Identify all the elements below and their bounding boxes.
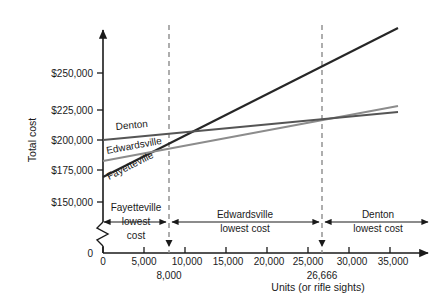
indifference-lines: 8,000 26,666 — [156, 25, 337, 281]
y-tick-label-200000: $200,000 — [51, 135, 93, 146]
y-axis: $250,000 $225,000 $200,000 $175,000 $150… — [26, 30, 108, 259]
x-tick-label-15000: 15,000 — [213, 256, 244, 267]
chart-canvas: $250,000 $225,000 $200,000 $175,000 $150… — [0, 0, 439, 302]
region-label-edwardsville-2: lowest cost — [220, 223, 270, 234]
x-tick-label-20000: 20,000 — [254, 256, 285, 267]
series-label-denton: Denton — [115, 118, 148, 132]
x-axis: 0 5,000 10,000 15,000 20,000 25,000 30,0… — [100, 247, 428, 293]
y-origin-label: 0 — [87, 248, 93, 259]
region-label-fayetteville-2: lowest — [122, 216, 151, 227]
x-axis-title: Units (or rifle sights) — [271, 281, 364, 293]
y-tick-label-175000: $175,000 — [51, 165, 93, 176]
x-tick-label-35000: 35,000 — [378, 256, 409, 267]
x-tick-label-10000: 10,000 — [172, 256, 203, 267]
region-brackets: Fayetteville lowest cost Edwardsville lo… — [104, 202, 428, 241]
y-tick-label-225000: $225,000 — [51, 105, 93, 116]
region-label-edwardsville-1: Edwardsville — [217, 209, 274, 220]
y-axis-title: Total cost — [26, 118, 38, 162]
x-tick-label-25000: 25,000 — [293, 256, 324, 267]
cost-comparison-chart: $250,000 $225,000 $200,000 $175,000 $150… — [0, 0, 439, 302]
indifference-marker-26666 — [319, 240, 326, 247]
region-label-denton-2: lowest cost — [353, 223, 403, 234]
x-tick-label-5000: 5,000 — [131, 256, 156, 267]
indifference-marker-8000 — [166, 240, 173, 247]
region-label-denton-1: Denton — [362, 209, 394, 220]
region-label-fayetteville-1: Fayetteville — [111, 202, 162, 213]
y-tick-label-150000: $150,000 — [51, 197, 93, 208]
region-label-fayetteville-3: cost — [127, 230, 146, 241]
y-tick-label-250000: $250,000 — [51, 68, 93, 79]
x-tick-label-0: 0 — [100, 256, 106, 267]
x-tick-label-30000: 30,000 — [337, 256, 368, 267]
indifference-label-26666: 26,666 — [307, 270, 338, 281]
indifference-label-8000: 8,000 — [156, 270, 181, 281]
axis-break-symbol — [97, 222, 108, 246]
series-labels: Denton Edwardsville Fayetteville — [105, 118, 163, 182]
